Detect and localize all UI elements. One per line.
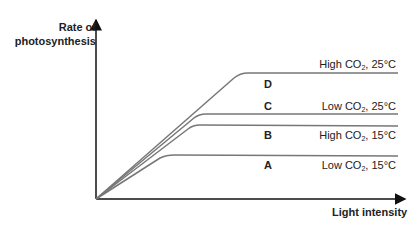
curve-d-label: High CO2, 25°C — [319, 58, 396, 70]
curve-d-letter: D — [264, 78, 272, 90]
curve-a-label: Low CO2, 15°C — [322, 159, 396, 171]
curve-a-letter: A — [264, 159, 272, 171]
x-axis-label: Light intensity — [332, 206, 407, 218]
curve-c-letter: C — [264, 100, 272, 112]
y-axis-label: Rate of photosynthesis — [15, 20, 96, 48]
curve-b-label: High CO2, 15°C — [319, 129, 396, 141]
curve-c-label: Low CO2, 25°C — [322, 100, 396, 112]
curve-b-letter: B — [264, 129, 272, 141]
y-label-line1: Rate of — [15, 20, 96, 34]
y-label-line2: photosynthesis — [15, 34, 96, 48]
